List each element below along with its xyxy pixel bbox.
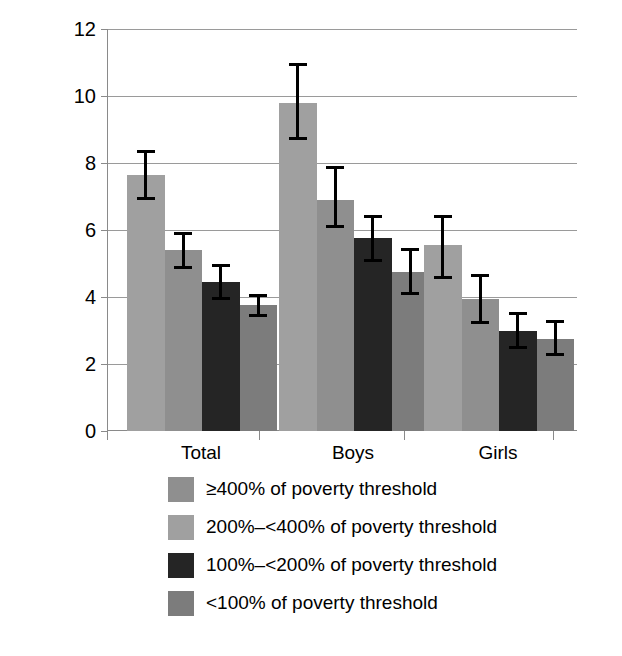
- x-axis-label: Boys: [332, 442, 374, 464]
- bar-chart: Percentage 024681012 TotalBoysGirls ≥400…: [0, 0, 622, 656]
- error-bar-cap-top: [434, 215, 452, 218]
- y-axis-tick-label: 4: [85, 286, 96, 309]
- error-bar-cap-bottom: [289, 137, 307, 140]
- error-bar-cap-bottom: [212, 297, 230, 300]
- error-bar-stem: [371, 215, 374, 262]
- error-bar-cap-top: [137, 150, 155, 153]
- error-bar-cap-bottom: [434, 276, 452, 279]
- y-axis-tick-label: 2: [85, 353, 96, 376]
- legend-swatch: [168, 591, 194, 616]
- y-axis-tick-label: 10: [74, 85, 96, 108]
- legend-swatch: [168, 553, 194, 578]
- bar: [279, 103, 317, 431]
- error-bar-cap-top: [364, 215, 382, 218]
- error-bar-cap-bottom: [364, 259, 382, 262]
- bar: [127, 175, 165, 431]
- error-bar-cap-bottom: [471, 321, 489, 324]
- error-bar-stem: [479, 274, 482, 324]
- error-bar-cap-bottom: [509, 346, 527, 349]
- error-bar-stem: [182, 232, 185, 269]
- y-axis-tick-label: 8: [85, 152, 96, 175]
- y-axis-tick: [101, 163, 108, 164]
- y-axis-tick: [101, 230, 108, 231]
- error-bar-stem: [554, 320, 557, 355]
- legend-item: 100%–<200% of poverty threshold: [168, 546, 598, 584]
- error-bar-stem: [516, 312, 519, 349]
- y-axis-tick-label: 6: [85, 219, 96, 242]
- y-axis-tick: [101, 364, 108, 365]
- bar: [354, 238, 392, 431]
- error-bar-cap-bottom: [401, 292, 419, 295]
- legend-swatch: [168, 477, 194, 502]
- x-axis-tick: [553, 431, 554, 440]
- x-axis-tick: [259, 431, 260, 440]
- error-bar-cap-top: [212, 264, 230, 267]
- error-bar-stem: [334, 166, 337, 228]
- bar: [240, 305, 278, 431]
- plot-area: 024681012: [107, 29, 577, 431]
- error-bar-cap-top: [471, 274, 489, 277]
- error-bar-cap-top: [326, 166, 344, 169]
- gridline: [108, 96, 577, 97]
- gridline: [108, 29, 577, 30]
- legend-label: 200%–<400% of poverty threshold: [206, 516, 497, 538]
- legend-item: 200%–<400% of poverty threshold: [168, 508, 598, 546]
- y-axis-tick: [101, 297, 108, 298]
- bar: [202, 282, 240, 431]
- x-axis-label: Total: [181, 442, 221, 464]
- legend-item: <100% of poverty threshold: [168, 584, 598, 622]
- error-bar-cap-bottom: [249, 314, 267, 317]
- bar: [165, 250, 203, 431]
- bar: [317, 200, 355, 431]
- legend-item: ≥400% of poverty threshold: [168, 470, 598, 508]
- error-bar-cap-top: [401, 248, 419, 251]
- legend-swatch: [168, 515, 194, 540]
- legend-label: 100%–<200% of poverty threshold: [206, 554, 497, 576]
- y-axis-tick: [101, 29, 108, 30]
- error-bar-cap-top: [509, 312, 527, 315]
- error-bar-cap-bottom: [326, 225, 344, 228]
- error-bar-cap-top: [174, 232, 192, 235]
- error-bar-stem: [296, 63, 299, 140]
- y-axis-tick-label: 12: [74, 18, 96, 41]
- error-bar-cap-top: [249, 294, 267, 297]
- y-axis-tick-label: 0: [85, 420, 96, 443]
- error-bar-cap-bottom: [546, 353, 564, 356]
- legend: ≥400% of poverty threshold200%–<400% of …: [168, 470, 598, 622]
- y-axis-tick: [101, 96, 108, 97]
- x-axis-tick: [404, 431, 405, 440]
- x-axis-label: Girls: [478, 442, 517, 464]
- error-bar-stem: [441, 215, 444, 279]
- error-bar-cap-top: [289, 63, 307, 66]
- plot-wrapper: 024681012 TotalBoysGirls: [107, 29, 577, 431]
- legend-label: <100% of poverty threshold: [206, 592, 438, 614]
- x-axis: TotalBoysGirls: [107, 431, 577, 471]
- error-bar-cap-top: [546, 320, 564, 323]
- error-bar-cap-bottom: [137, 197, 155, 200]
- legend-label: ≥400% of poverty threshold: [206, 478, 437, 500]
- gridline: [108, 163, 577, 164]
- error-bar-stem: [219, 264, 222, 301]
- error-bar-cap-bottom: [174, 266, 192, 269]
- x-axis-tick: [107, 431, 108, 440]
- error-bar-stem: [409, 248, 412, 295]
- error-bar-stem: [144, 150, 147, 200]
